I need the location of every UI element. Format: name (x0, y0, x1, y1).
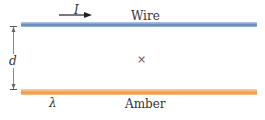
point-marker: × (137, 54, 146, 66)
charge-density-label: λ (49, 97, 57, 109)
amber-rod (21, 89, 257, 95)
amber-label: Amber (125, 98, 166, 110)
dimension-tick-bottom (10, 89, 17, 90)
diagram-canvas: I Wire d × λ Amber (0, 0, 265, 120)
distance-label: d (9, 54, 17, 68)
